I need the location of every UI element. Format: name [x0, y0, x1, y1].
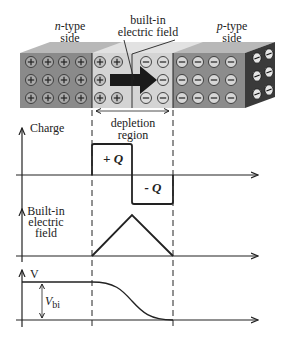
negative-ion-icon [253, 53, 261, 63]
positive-ion-icon [43, 93, 54, 104]
negative-ion-icon [158, 93, 169, 104]
positive-ion-icon [95, 57, 106, 68]
n-type-side-word: side [60, 31, 79, 45]
positive-ion-icon [26, 57, 37, 68]
negative-ion-icon [253, 71, 261, 81]
negative-ion-icon [193, 57, 204, 68]
positive-ion-icon [43, 57, 54, 68]
positive-ion-icon [112, 93, 123, 104]
positive-ion-icon [59, 57, 70, 68]
negative-ion-icon [209, 75, 220, 86]
positive-ion-icon [59, 75, 70, 86]
depletion-line2: region [118, 128, 149, 142]
positive-ion-icon [59, 93, 70, 104]
negative-ion-icon [226, 57, 237, 68]
negative-ion-icon [209, 57, 220, 68]
p-type-side-label: p-type side [210, 20, 254, 44]
depletion-region-label: depletion region [100, 117, 166, 141]
efield-axis-label: Built-in electric field [26, 206, 66, 239]
field-label-line2: electric field [118, 25, 178, 39]
plus-q-label: + Q [97, 153, 129, 165]
v-axis-label: V [30, 268, 44, 280]
positive-ion-icon [76, 93, 87, 104]
positive-ion-icon [76, 75, 87, 86]
n-type-side-label: n-type side [48, 20, 92, 44]
positive-ion-icon [26, 75, 37, 86]
minus-q-label: - Q [136, 182, 170, 194]
vbi-label: Vbi [45, 295, 67, 311]
positive-ion-icon [43, 75, 54, 86]
negative-ion-icon [193, 75, 204, 86]
efield-line3: field [35, 226, 57, 240]
positive-ion-icon [76, 57, 87, 68]
charge-axis-label: Charge [30, 122, 80, 134]
negative-ion-icon [177, 57, 188, 68]
positive-ion-icon [112, 57, 123, 68]
negative-ion-icon [177, 93, 188, 104]
negative-ion-icon [141, 57, 152, 68]
positive-ion-icon [95, 75, 106, 86]
negative-ion-icon [177, 75, 188, 86]
negative-ion-icon [158, 75, 169, 86]
negative-ion-icon [226, 75, 237, 86]
negative-ion-icon [253, 89, 261, 99]
pn-junction-diagram [0, 0, 292, 346]
negative-ion-icon [209, 93, 220, 104]
negative-ion-icon [265, 49, 273, 59]
negative-ion-icon [226, 93, 237, 104]
negative-ion-icon [265, 85, 273, 95]
negative-ion-icon [265, 67, 273, 77]
negative-ion-icon [193, 93, 204, 104]
built-in-field-label: built-in electric field [106, 14, 190, 38]
positive-ion-icon [95, 93, 106, 104]
vbi-subscript: bi [52, 299, 60, 310]
p-type-side-word: side [222, 31, 241, 45]
positive-ion-icon [26, 93, 37, 104]
negative-ion-icon [158, 57, 169, 68]
efield-profile [92, 215, 173, 256]
negative-ion-icon [141, 93, 152, 104]
